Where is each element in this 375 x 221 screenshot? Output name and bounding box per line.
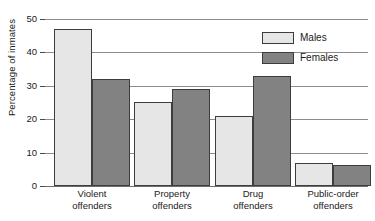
y-tick-label-0: 0 <box>11 181 37 190</box>
legend-item-males: Males <box>262 30 370 45</box>
y-tick-label-50: 50 <box>11 14 37 23</box>
legend-swatch-males <box>262 32 294 44</box>
bar-males-2 <box>215 116 253 186</box>
y-tick-label-30: 30 <box>11 81 37 90</box>
bar-males-0 <box>54 29 92 186</box>
x-axis-label-line2: offenders <box>278 200 375 212</box>
y-tick-mark-0 <box>40 186 45 187</box>
bar-males-3 <box>295 163 333 186</box>
bar-females-3 <box>333 165 371 186</box>
x-axis-labels: ViolentoffendersPropertyoffendersDrugoff… <box>45 188 368 221</box>
legend-swatch-females <box>262 52 294 64</box>
bar-males-1 <box>134 102 172 186</box>
y-tick-label-10: 10 <box>11 148 37 157</box>
x-axis-label-line1: Property <box>154 188 190 199</box>
x-axis-label-line1: Drug <box>243 188 264 199</box>
legend-label-males: Males <box>300 32 327 43</box>
chart-legend: MalesFemales <box>262 30 370 70</box>
bar-chart: Percentage of inmates 01020304050 Violen… <box>0 0 375 221</box>
bar-females-0 <box>92 79 130 186</box>
legend-label-females: Females <box>300 52 338 63</box>
bar-group-0 <box>54 19 130 186</box>
legend-item-females: Females <box>262 50 370 65</box>
y-tick-label-40: 40 <box>11 47 37 56</box>
x-axis-label-line1: Public-order <box>307 188 358 199</box>
y-tick-label-20: 20 <box>11 114 37 123</box>
x-axis-label-line1: Violent <box>78 188 107 199</box>
gridline-0 <box>45 186 368 187</box>
bar-females-2 <box>253 76 291 186</box>
x-axis-label-3: Public-orderoffenders <box>278 188 375 211</box>
bar-group-1 <box>134 19 210 186</box>
bar-females-1 <box>172 89 210 186</box>
